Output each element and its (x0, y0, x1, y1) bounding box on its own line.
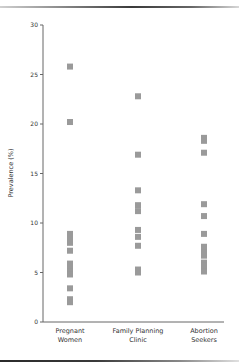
x-category-label: Seekers (191, 336, 217, 344)
y-tick-label: 30 (30, 21, 38, 28)
y-tick-label: 0 (34, 318, 38, 325)
series-pregnant-women (67, 64, 73, 306)
y-tick-label: 20 (30, 120, 38, 127)
y-tick-label: 10 (30, 219, 38, 226)
x-category-label: Women (58, 336, 82, 344)
data-point (201, 231, 207, 237)
y-tick-label: 15 (30, 170, 38, 177)
data-point (201, 150, 207, 156)
data-point (135, 234, 141, 240)
data-point (201, 201, 207, 207)
series-family-planning-clinic (135, 93, 141, 275)
y-tick-label: 5 (34, 269, 38, 276)
data-point (201, 138, 207, 144)
prevalence-scatter-chart: 051015202530 Prevalence (%) PregnantWome… (0, 0, 239, 363)
data-point (201, 253, 207, 259)
series-abortion-seekers (201, 135, 207, 275)
data-point (67, 285, 73, 291)
x-category-label: Family Planning (113, 327, 164, 335)
data-point (67, 240, 73, 246)
data-points (67, 64, 207, 306)
data-point (67, 64, 73, 70)
data-point (67, 248, 73, 254)
x-category-label: Clinic (129, 336, 147, 344)
data-point (135, 243, 141, 249)
data-point (135, 270, 141, 276)
y-axis-title: Prevalence (%) (7, 149, 15, 198)
data-point (67, 271, 73, 277)
x-category-label: Pregnant (55, 327, 85, 335)
data-point (67, 119, 73, 125)
y-tick-label: 25 (30, 71, 38, 78)
x-category-label: Abortion (190, 327, 218, 335)
data-point (135, 187, 141, 193)
data-point (67, 299, 73, 305)
category-labels: PregnantWomenFamily PlanningClinicAborti… (55, 327, 217, 344)
data-point (201, 213, 207, 219)
data-point (135, 152, 141, 158)
data-point (201, 269, 207, 275)
data-point (135, 93, 141, 99)
data-point (135, 202, 141, 208)
data-point (135, 227, 141, 233)
data-point (135, 208, 141, 214)
y-axis: 051015202530 (30, 21, 43, 325)
